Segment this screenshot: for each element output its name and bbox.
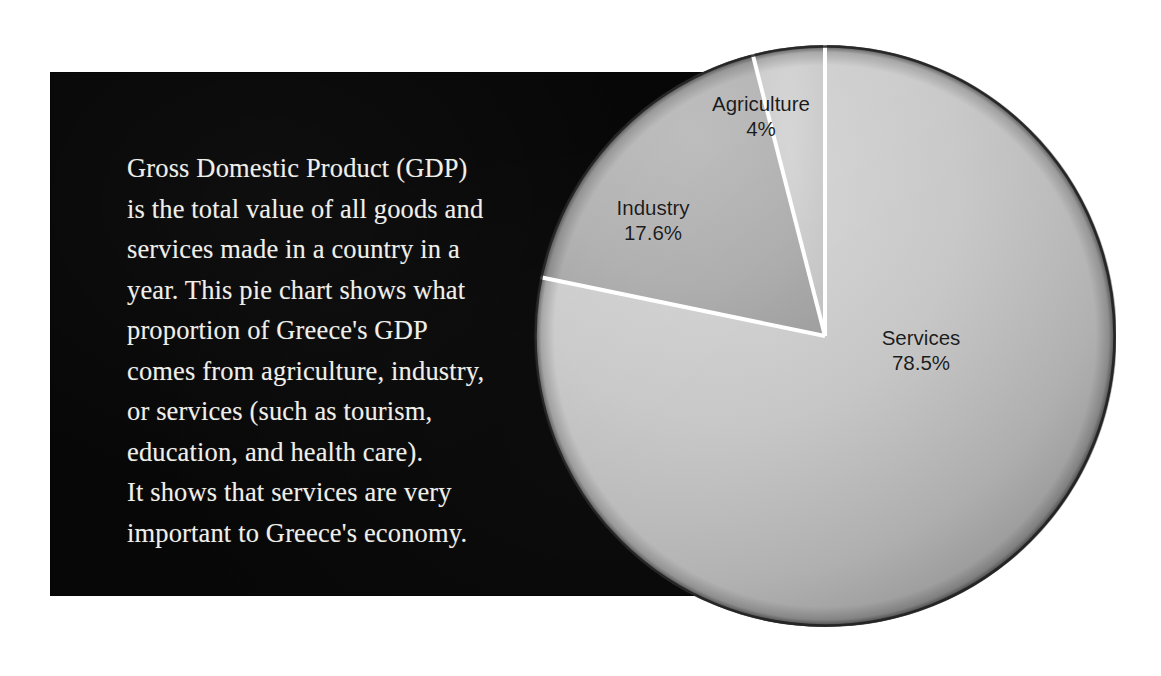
pie-label-industry-name: Industry [568, 195, 738, 220]
pie-label-agriculture: Agriculture 4% [676, 91, 846, 141]
description-line: education, and health care). [127, 432, 527, 473]
description-line: is the total value of all goods and [127, 189, 527, 230]
description-line: comes from agriculture, industry, [127, 351, 527, 392]
description-line: Gross Domestic Product (GDP) [127, 148, 527, 189]
description-line: important to Greece's economy. [127, 513, 527, 554]
pie-label-services: Services 78.5% [836, 325, 1006, 375]
pie-label-agriculture-name: Agriculture [676, 91, 846, 116]
gdp-description-text: Gross Domestic Product (GDP) is the tota… [127, 148, 527, 553]
pie-label-industry: Industry 17.6% [568, 195, 738, 245]
description-line: It shows that services are very [127, 472, 527, 513]
pie-label-industry-value: 17.6% [568, 220, 738, 245]
pie-label-services-name: Services [836, 325, 1006, 350]
description-line: proportion of Greece's GDP [127, 310, 527, 351]
pie-label-services-value: 78.5% [836, 350, 1006, 375]
description-line: or services (such as tourism, [127, 391, 527, 432]
slide-canvas: Gross Domestic Product (GDP) is the tota… [0, 0, 1161, 676]
pie-label-agriculture-value: 4% [676, 116, 846, 141]
description-line: services made in a country in a [127, 229, 527, 270]
description-line: year. This pie chart shows what [127, 270, 527, 311]
